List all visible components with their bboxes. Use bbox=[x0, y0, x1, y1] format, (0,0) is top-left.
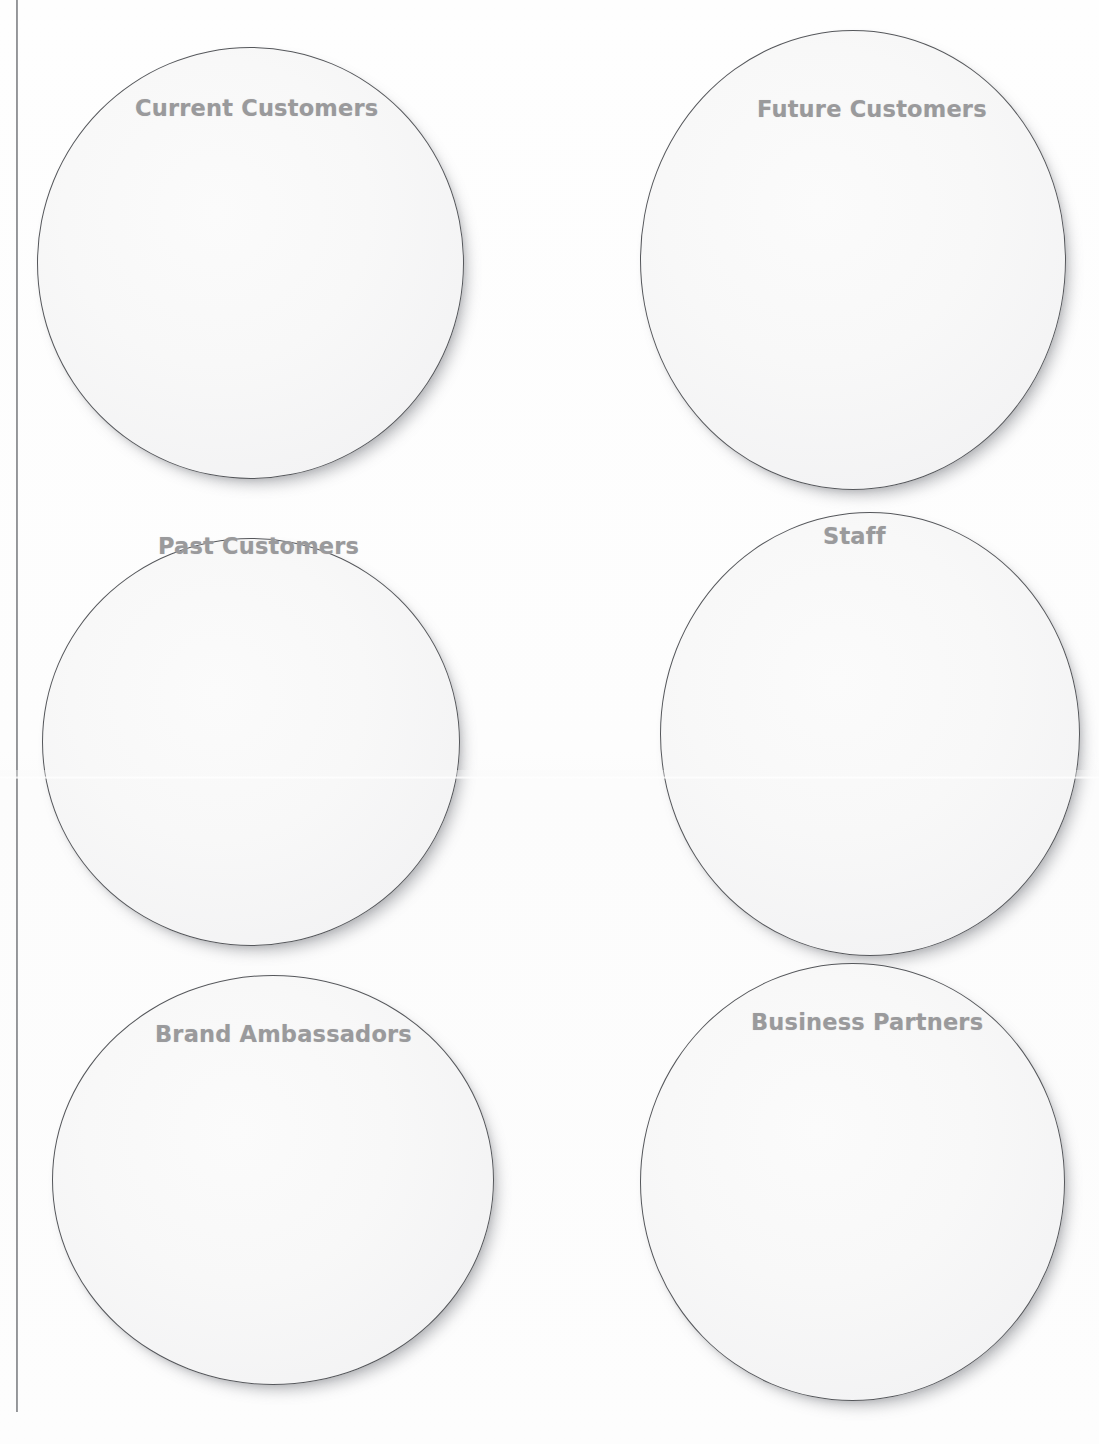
circle-label-past-customers: Past Customers bbox=[158, 535, 359, 558]
circle-label-current-customers: Current Customers bbox=[135, 97, 378, 120]
circle-label-future-customers: Future Customers bbox=[757, 98, 987, 121]
left-margin-rule bbox=[16, 0, 18, 1412]
worksheet-page: Current Customers Future Customers Past … bbox=[0, 0, 1099, 1444]
circle-label-business-partners: Business Partners bbox=[751, 1011, 983, 1034]
circle-label-brand-ambassadors: Brand Ambassadors bbox=[155, 1023, 412, 1046]
circle-label-staff: Staff bbox=[823, 525, 886, 548]
circle-staff[interactable] bbox=[660, 512, 1080, 956]
circle-past-customers[interactable] bbox=[42, 538, 460, 946]
